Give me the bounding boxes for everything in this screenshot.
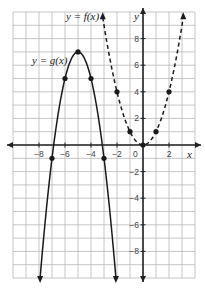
svg-text:−8: −8 (129, 246, 139, 256)
f-label: y = f(x) (65, 10, 99, 23)
graph-chart: −8−6−4−22−8−6−4−22468 y = f(x) y = g(x) … (0, 0, 205, 290)
svg-text:−4: −4 (86, 149, 96, 159)
svg-text:−8: −8 (34, 149, 44, 159)
svg-text:−6: −6 (129, 220, 139, 230)
data-point (101, 156, 106, 161)
svg-text:2: 2 (134, 113, 139, 123)
data-point (49, 156, 54, 161)
svg-text:6: 6 (134, 60, 139, 70)
data-point (114, 89, 119, 94)
svg-text:−4: −4 (129, 193, 139, 203)
g-label: y = g(x) (31, 54, 68, 67)
data-point (166, 89, 171, 94)
svg-text:2: 2 (167, 149, 172, 159)
x-axis-label: x (186, 148, 192, 160)
svg-text:−2: −2 (112, 149, 122, 159)
curves (37, 12, 186, 283)
data-point (127, 129, 132, 134)
svg-text:−2: −2 (129, 167, 139, 177)
origin-label: 0 (133, 149, 138, 159)
data-point (153, 129, 158, 134)
y-axis-label: y (133, 10, 139, 22)
svg-text:4: 4 (134, 87, 139, 97)
data-point (88, 76, 93, 81)
data-point (62, 76, 67, 81)
data-point (75, 49, 80, 54)
svg-text:−6: −6 (60, 149, 70, 159)
data-point (140, 142, 145, 147)
svg-text:8: 8 (134, 34, 139, 44)
